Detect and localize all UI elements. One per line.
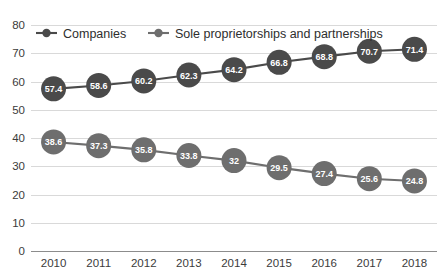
chart-legend: CompaniesSole proprietorships and partne… (36, 27, 383, 41)
data-point-marker[interactable]: 24.8 (402, 168, 427, 193)
y-axis-tick-label: 30 (12, 160, 25, 172)
legend-dot-swatch (42, 29, 50, 37)
data-point-label: 66.8 (270, 58, 288, 68)
data-point-label: 27.4 (315, 169, 333, 179)
legend-label: Sole proprietorships and partnerships (175, 27, 383, 41)
data-point-marker[interactable]: 66.8 (267, 50, 292, 75)
data-point-label: 24.8 (406, 176, 424, 186)
data-point-marker[interactable]: 64.2 (222, 57, 247, 82)
data-point-label: 35.8 (135, 145, 153, 155)
data-point-label: 57.4 (45, 84, 63, 94)
x-axis-tick-labels: 201020112012201320142015201620172018 (41, 257, 427, 269)
data-point-marker[interactable]: 33.8 (176, 143, 201, 168)
y-axis-tick-label: 60 (12, 76, 25, 88)
y-axis-tick-labels: 01020304050607080 (12, 19, 25, 257)
legend-item-1[interactable]: Companies (36, 27, 126, 41)
data-point-marker[interactable]: 27.4 (312, 161, 337, 186)
x-axis-tick-label: 2012 (131, 257, 157, 269)
y-axis-tick-label: 50 (12, 104, 25, 116)
data-point-marker[interactable]: 32 (222, 148, 247, 173)
y-axis-tick-label: 80 (12, 19, 25, 31)
x-axis-tick-label: 2013 (176, 257, 202, 269)
data-point-label: 38.6 (45, 137, 63, 147)
data-point-label: 60.2 (135, 76, 153, 86)
x-axis-tick-label: 2011 (86, 257, 111, 269)
data-point-label: 71.4 (406, 45, 424, 55)
x-axis-tick-label: 2017 (357, 257, 383, 269)
x-axis-tick-label: 2016 (311, 257, 337, 269)
legend-dot-swatch (154, 29, 162, 37)
series-markers: 57.458.660.262.364.266.868.870.771.438.6… (41, 37, 427, 194)
data-point-marker[interactable]: 57.4 (41, 76, 66, 101)
data-point-label: 58.6 (90, 81, 108, 91)
x-axis-tick-label: 2010 (41, 257, 67, 269)
y-axis-tick-label: 70 (12, 47, 25, 59)
legend-item-2[interactable]: Sole proprietorships and partnerships (148, 27, 383, 41)
legend-label: Companies (63, 27, 126, 41)
data-point-marker[interactable]: 29.5 (267, 155, 292, 180)
data-point-label: 64.2 (225, 65, 243, 75)
data-point-label: 37.3 (90, 141, 108, 151)
data-point-label: 70.7 (361, 47, 379, 57)
data-point-label: 62.3 (180, 71, 198, 81)
y-axis-tick-label: 10 (12, 217, 25, 229)
data-point-marker[interactable]: 62.3 (176, 63, 201, 88)
data-point-marker[interactable]: 68.8 (312, 44, 337, 69)
line-chart: 01020304050607080 2010201120122013201420… (0, 0, 444, 280)
data-point-label: 68.8 (315, 52, 333, 62)
data-point-label: 29.5 (270, 163, 288, 173)
x-axis-tick-label: 2018 (402, 257, 428, 269)
data-point-marker[interactable]: 71.4 (402, 37, 427, 62)
data-point-marker[interactable]: 37.3 (86, 133, 111, 158)
data-point-label: 32 (229, 156, 239, 166)
data-point-marker[interactable]: 60.2 (131, 68, 156, 93)
data-point-label: 33.8 (180, 151, 198, 161)
data-point-marker[interactable]: 38.6 (41, 129, 66, 154)
y-axis-tick-label: 40 (12, 132, 25, 144)
x-axis-tick-label: 2014 (221, 257, 247, 269)
data-point-marker[interactable]: 70.7 (357, 39, 382, 64)
x-axis-tick-label: 2015 (266, 257, 292, 269)
data-point-marker[interactable]: 35.8 (131, 137, 156, 162)
data-point-marker[interactable]: 25.6 (357, 166, 382, 191)
data-point-marker[interactable]: 58.6 (86, 73, 111, 98)
data-point-label: 25.6 (361, 174, 379, 184)
chart-canvas: 01020304050607080 2010201120122013201420… (0, 0, 444, 280)
y-axis-tick-label: 0 (19, 245, 25, 257)
y-axis-tick-label: 20 (12, 189, 25, 201)
